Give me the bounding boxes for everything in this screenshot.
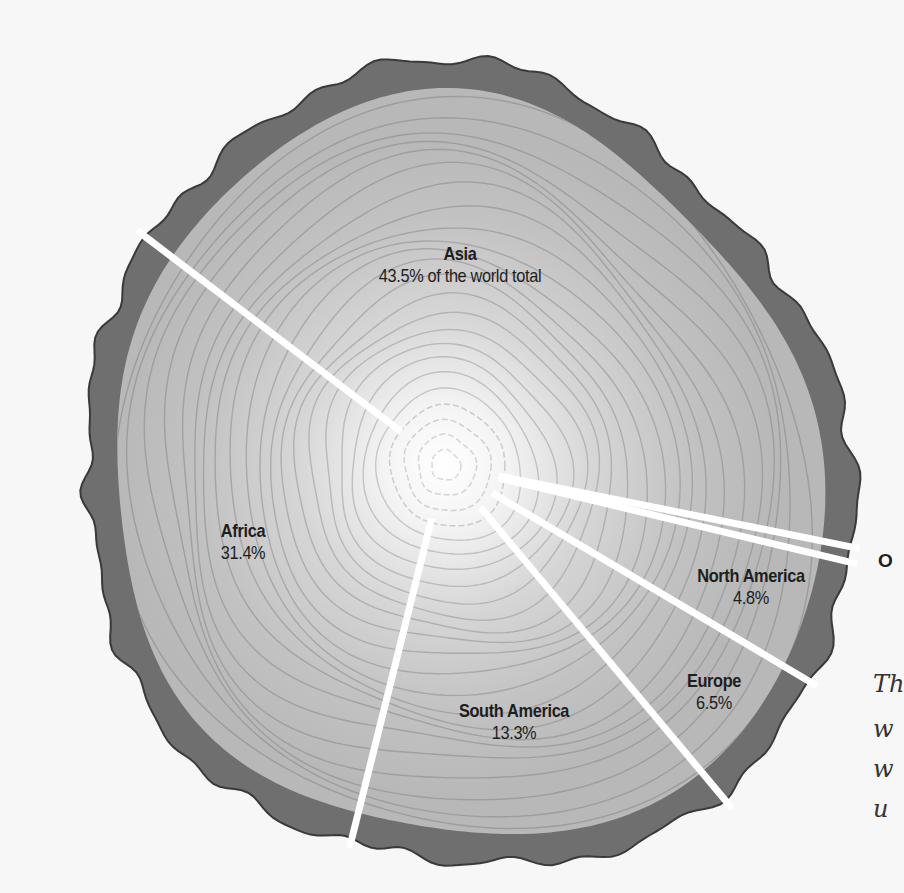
europe-value: 6.5% — [687, 692, 741, 714]
asia-value: 43.5% of the world total — [379, 265, 542, 287]
caption-line-3: w — [873, 757, 894, 781]
slice-label-africa: Africa 31.4% — [217, 520, 269, 564]
africa-name: Africa — [221, 520, 266, 542]
slice-label-oceania-partial: O — [878, 550, 893, 572]
caption-line-1: Th — [873, 672, 904, 696]
europe-name: Europe — [687, 670, 741, 692]
slice-label-south-america: South America 13.3% — [450, 700, 578, 744]
slice-label-asia: Asia 43.5% of the world total — [366, 243, 555, 287]
north-america-value: 4.8% — [697, 587, 805, 609]
slice-label-europe: Europe 6.5% — [682, 670, 745, 714]
asia-name: Asia — [379, 243, 542, 265]
caption-line-2: w — [873, 717, 894, 741]
caption-line-4: u — [873, 797, 888, 821]
north-america-name: North America — [697, 565, 805, 587]
slice-label-north-america: North America 4.8% — [688, 565, 813, 609]
africa-value: 31.4% — [221, 542, 266, 564]
south-america-value: 13.3% — [459, 722, 569, 744]
south-america-name: South America — [459, 700, 569, 722]
